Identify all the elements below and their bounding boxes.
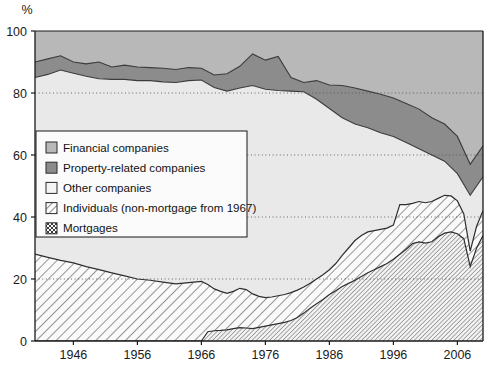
legend-swatch-white	[46, 182, 57, 193]
legend-label: Mortgages	[63, 221, 118, 234]
chart-container: 020406080100 194619561966197619861996200…	[0, 0, 498, 373]
y-tick-label-100: 100	[6, 25, 27, 39]
legend-swatch-diagonal-hatch	[46, 203, 57, 214]
y-tick-label-60: 60	[13, 149, 27, 163]
chart-legend: Financial companiesProperty-related comp…	[36, 131, 256, 237]
legend-label: Individuals (non-mortgage from 1967)	[63, 201, 256, 214]
legend-label: Other companies	[63, 181, 151, 194]
x-tick-label-1976: 1976	[251, 348, 279, 362]
x-tick-label-1946: 1946	[59, 348, 87, 362]
x-tick-label-1956: 1956	[123, 348, 151, 362]
x-tick-label-1966: 1966	[187, 348, 215, 362]
stacked-area-chart: 020406080100 194619561966197619861996200…	[0, 0, 498, 373]
y-axis-unit-label: %	[21, 3, 32, 17]
legend-label: Property-related companies	[63, 161, 206, 174]
legend-swatch-medium-gray	[46, 142, 57, 153]
y-tick-label-20: 20	[13, 273, 27, 287]
x-tick-label-1986: 1986	[315, 348, 343, 362]
x-tick-label-1996: 1996	[379, 348, 407, 362]
y-tick-label-0: 0	[20, 335, 27, 349]
x-tick-label-2006: 2006	[443, 348, 471, 362]
legend-label: Financial companies	[63, 141, 169, 154]
y-tick-label-40: 40	[13, 211, 27, 225]
legend-swatch-dark-gray	[46, 162, 57, 173]
legend-swatch-diagonal-hatch-dense	[46, 223, 57, 234]
y-tick-label-80: 80	[13, 87, 27, 101]
